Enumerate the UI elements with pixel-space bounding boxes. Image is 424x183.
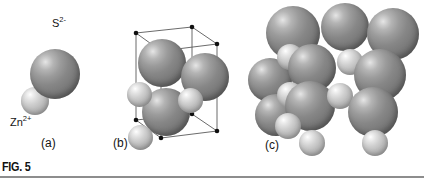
panel-label-b: (b) <box>113 136 128 150</box>
zinc-ion-sphere <box>362 130 388 156</box>
unit-cell-edge <box>192 114 217 131</box>
unit-cell-vertex-dot <box>159 136 164 141</box>
unit-cell-vertex-dot <box>190 25 195 30</box>
figure-canvas: S2-Zn2+(a) (b) (c) <box>0 0 424 183</box>
panel-label-a: (a) <box>41 136 56 150</box>
ion-charge: 2+ <box>23 114 32 123</box>
ion-charge: 2- <box>59 15 66 24</box>
sulfide-ion-sphere <box>138 39 186 87</box>
panel-label-c: (c) <box>265 138 279 152</box>
zinc-ion-sphere <box>178 88 203 113</box>
sulfide-ion-sphere <box>321 3 369 51</box>
zinc-ion-sphere <box>275 113 301 139</box>
unit-cell-edge <box>192 27 217 44</box>
unit-cell-vertex-dot <box>134 118 139 123</box>
zinc-ion-sphere <box>127 82 152 107</box>
unit-cell-vertex-dot <box>134 31 139 36</box>
zinc-ion-label: Zn2+ <box>10 116 31 128</box>
unit-cell-vertex-dot <box>215 129 220 134</box>
zinc-ion-sphere <box>128 125 153 150</box>
zinc-ion-sphere <box>299 130 325 156</box>
unit-cell-edge <box>136 27 192 33</box>
unit-cell-vertex-dot <box>215 42 220 47</box>
ion-symbol: Zn <box>10 116 23 128</box>
sulfide-ion-label: S2- <box>52 17 66 29</box>
